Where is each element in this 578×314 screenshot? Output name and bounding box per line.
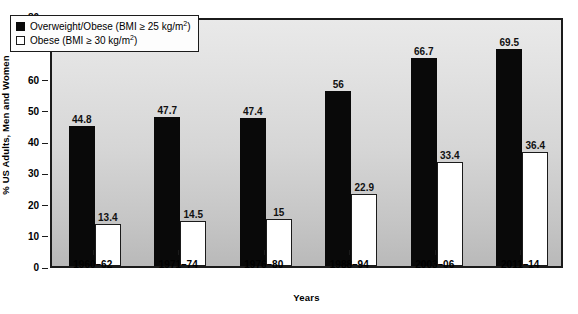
x-tick-mark — [435, 250, 436, 255]
x-tick-label: 1988–94 — [330, 258, 369, 271]
bar-overweight-obese: 56 — [325, 91, 351, 266]
y-tick-label: 10 — [28, 230, 39, 243]
legend-swatch-dark-icon — [16, 22, 25, 31]
bar-value-label: 33.4 — [440, 149, 459, 162]
bar-overweight-obese: 44.8 — [69, 126, 95, 266]
bar-value-label: 15 — [273, 206, 284, 219]
bar-value-label: 47.4 — [243, 105, 262, 118]
bar-value-label: 22.9 — [355, 181, 374, 194]
bar-value-label: 69.5 — [500, 36, 519, 49]
bars-container: 44.813.447.714.547.4155622.966.733.469.5… — [52, 20, 561, 266]
x-tick-label: 1960–62 — [73, 258, 112, 271]
legend: Overweight/Obese (BMI ≥ 25 kg/m2) Obese … — [10, 15, 199, 52]
x-tick-label: 1971–74 — [159, 258, 198, 271]
bar-overweight-obese: 47.7 — [154, 117, 180, 266]
x-axis-title: Years — [50, 292, 563, 303]
y-tick-label: 60 — [28, 74, 39, 87]
legend-item-obese: Obese (BMI ≥ 30 kg/m2) — [16, 33, 191, 47]
y-tick-label: 50 — [28, 105, 39, 118]
y-tick-mark — [42, 268, 48, 269]
plot-area: 44.813.447.714.547.4155622.966.733.469.5… — [50, 18, 563, 268]
legend-label-obese: Obese (BMI ≥ 30 kg/m2) — [30, 35, 137, 46]
bar-overweight-obese: 66.7 — [411, 58, 437, 266]
bar-value-label: 36.4 — [526, 139, 545, 152]
y-tick-label: 40 — [28, 136, 39, 149]
x-tick-label: 2011–14 — [501, 258, 539, 271]
x-tick-mark — [349, 250, 350, 255]
x-tick-label: 1976–80 — [244, 258, 283, 271]
bar-chart-figure: % US Adults, Men and Women 8070605040302… — [0, 0, 578, 314]
bar-obese: 22.9 — [351, 194, 377, 266]
y-tick-mark — [42, 174, 48, 175]
bar-obese: 33.4 — [437, 162, 463, 266]
y-tick-mark — [42, 111, 48, 112]
bar-value-label: 44.8 — [72, 113, 91, 126]
x-tick-mark — [264, 250, 265, 255]
y-tick-mark — [42, 80, 48, 81]
bar-overweight-obese: 47.4 — [240, 118, 266, 266]
y-tick-label: 0 — [33, 261, 39, 274]
y-tick-label: 30 — [28, 167, 39, 180]
bar-value-label: 14.5 — [184, 208, 203, 221]
bar-value-label: 47.7 — [158, 104, 177, 117]
bar-value-label: 66.7 — [414, 45, 433, 58]
bar-value-label: 56 — [333, 78, 344, 91]
legend-item-overweight-obese: Overweight/Obese (BMI ≥ 25 kg/m2) — [16, 19, 191, 33]
y-tick-mark — [42, 205, 48, 206]
y-tick-label: 20 — [28, 199, 39, 212]
x-tick-mark — [178, 250, 179, 255]
legend-swatch-light-icon — [16, 36, 25, 45]
legend-label-overweight-obese: Overweight/Obese (BMI ≥ 25 kg/m2) — [30, 21, 191, 32]
y-tick-mark — [42, 236, 48, 237]
bar-obese: 36.4 — [522, 152, 548, 266]
bar-value-label: 13.4 — [98, 211, 117, 224]
bar-overweight-obese: 69.5 — [496, 49, 522, 266]
x-tick-label: 2003–06 — [415, 258, 454, 271]
x-tick-mark — [93, 250, 94, 255]
y-tick-mark — [42, 143, 48, 144]
x-tick-mark — [520, 250, 521, 255]
